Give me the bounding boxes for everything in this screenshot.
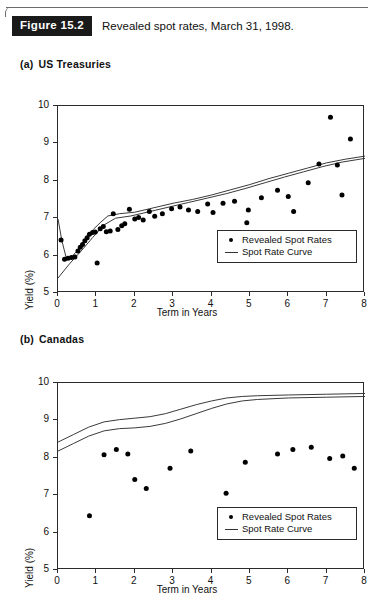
data-point	[87, 513, 92, 518]
y-tick-label: 6	[33, 526, 49, 537]
data-point	[327, 456, 332, 461]
data-point	[195, 209, 200, 214]
y-tick-label: 9	[33, 413, 49, 424]
chart-us-treasuries: Yield (%) 0123456785678910 Term in Years…	[0, 85, 374, 320]
figure-caption: Revealed spot rates, March 31, 1998.	[102, 20, 294, 32]
x-tick	[211, 292, 212, 296]
y-tick	[53, 382, 57, 383]
figure-top-rule	[6, 7, 368, 8]
data-point	[306, 180, 311, 185]
data-point	[340, 453, 345, 458]
legend-dot-icon	[223, 238, 239, 242]
plot-svg-a	[58, 106, 365, 293]
figure-header: Figure 15.2 Revealed spot rates, March 3…	[12, 16, 294, 36]
data-point	[224, 491, 229, 496]
y-tick	[53, 105, 57, 106]
figure-number-badge: Figure 15.2	[12, 16, 92, 36]
plot-area-a	[57, 105, 364, 292]
data-point	[115, 227, 120, 232]
y-tick	[53, 569, 57, 570]
y-tick	[53, 419, 57, 420]
data-point	[309, 445, 314, 450]
data-point	[335, 163, 340, 168]
data-point	[147, 209, 152, 214]
data-point	[72, 255, 77, 260]
panel-tag-a: (a)	[20, 58, 33, 70]
x-tick	[134, 569, 135, 573]
data-point	[211, 210, 216, 215]
x-tick	[364, 292, 365, 296]
data-point	[339, 193, 344, 198]
data-point	[132, 477, 137, 482]
y-tick-label: 5	[33, 286, 49, 297]
x-tick	[249, 569, 250, 573]
x-tick	[364, 569, 365, 573]
plot-svg-b	[58, 383, 365, 570]
legend-curve-label-a: Spot Rate Curve	[239, 246, 312, 258]
data-point	[259, 195, 264, 200]
data-point	[244, 220, 249, 225]
plot-area-b	[57, 382, 364, 569]
y-tick-label: 7	[33, 211, 49, 222]
x-tick	[95, 292, 96, 296]
data-point	[152, 214, 157, 219]
y-tick-label: 8	[33, 174, 49, 185]
data-point	[111, 211, 116, 216]
data-point	[101, 224, 106, 229]
data-point	[328, 115, 333, 120]
x-tick	[57, 292, 58, 296]
data-point	[178, 204, 183, 209]
x-tick	[134, 292, 135, 296]
x-tick	[249, 292, 250, 296]
legend-b: Revealed Spot Rates Spot Rate Curve	[217, 507, 357, 540]
y-tick	[53, 457, 57, 458]
x-tick	[172, 292, 173, 296]
panel-label-a: (a)US Treasuries	[20, 58, 111, 70]
data-point	[102, 452, 107, 457]
legend-curve-label-b: Spot Rate Curve	[239, 523, 312, 535]
data-point	[186, 207, 191, 212]
x-tick	[287, 569, 288, 573]
chart-canadas: Yield (%) 0123456785678910 Term in Years…	[0, 360, 374, 600]
data-point	[221, 201, 226, 206]
data-point	[290, 447, 295, 452]
y-tick	[53, 142, 57, 143]
data-point	[141, 218, 146, 223]
y-tick-label: 7	[33, 488, 49, 499]
legend-item-curve-b: Spot Rate Curve	[223, 523, 350, 535]
data-point	[59, 237, 64, 242]
legend-points-label-a: Revealed Spot Rates	[239, 234, 332, 246]
data-point	[93, 230, 98, 235]
y-tick	[53, 494, 57, 495]
y-tick-label: 9	[33, 136, 49, 147]
x-tick	[57, 569, 58, 573]
y-tick	[53, 292, 57, 293]
data-point	[108, 228, 113, 233]
y-tick-label: 10	[33, 376, 49, 387]
data-point	[136, 215, 141, 220]
legend-a: Revealed Spot Rates Spot Rate Curve	[217, 230, 357, 263]
y-tick	[53, 255, 57, 256]
x-tick	[172, 569, 173, 573]
legend-line-icon	[223, 252, 239, 253]
data-point	[316, 161, 321, 166]
y-tick	[53, 532, 57, 533]
legend-item-points-b: Revealed Spot Rates	[223, 511, 350, 523]
legend-dot-icon	[223, 515, 239, 519]
spot-rate-curve	[58, 393, 365, 442]
data-point	[168, 466, 173, 471]
data-point	[114, 447, 119, 452]
legend-item-points-a: Revealed Spot Rates	[223, 234, 350, 246]
y-tick	[53, 217, 57, 218]
data-point	[144, 486, 149, 491]
panel-tag-b: (b)	[20, 333, 34, 345]
data-point	[127, 207, 132, 212]
data-point	[125, 452, 130, 457]
x-axis-title-a: Term in Years	[0, 307, 374, 318]
legend-points-label-b: Revealed Spot Rates	[239, 511, 332, 523]
x-tick	[326, 569, 327, 573]
data-point	[188, 449, 193, 454]
data-point	[122, 221, 127, 226]
legend-item-curve-a: Spot Rate Curve	[223, 246, 350, 258]
data-point	[243, 460, 248, 465]
